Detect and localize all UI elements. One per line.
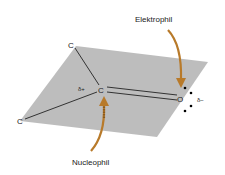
partial-charge-negative: δ− <box>197 97 204 103</box>
atom-c-carbonyl: C <box>98 86 104 95</box>
atom-c-left: C <box>17 117 23 126</box>
partial-charge-positive: δ+ <box>78 86 85 92</box>
electrophile-label: Elektrophil <box>135 15 173 24</box>
atom-c-top: C <box>68 41 74 50</box>
carbonyl-diagram: C C C O δ+ δ− Elektrophil Nucleophil <box>0 0 225 175</box>
nucleophile-label: Nucleophil <box>72 158 110 167</box>
atom-o: O <box>177 95 183 104</box>
